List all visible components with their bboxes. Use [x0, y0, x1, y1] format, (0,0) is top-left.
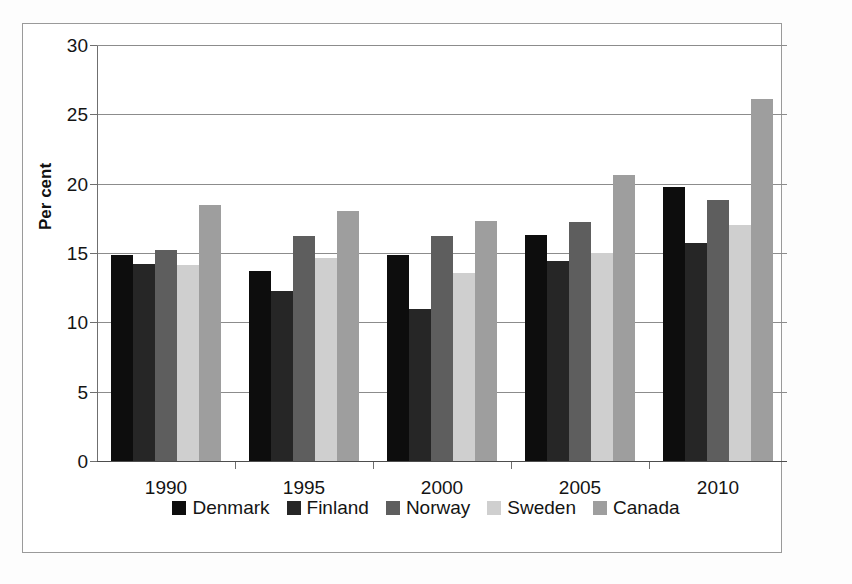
x-tick-label-2000: 2000 — [421, 477, 463, 499]
bar-sweden-2005 — [591, 253, 613, 462]
legend-swatch-icon — [487, 501, 501, 515]
legend-swatch-icon — [287, 501, 301, 515]
bar-norway-2005 — [569, 222, 591, 462]
bar-denmark-2005 — [525, 235, 547, 462]
bar-sweden-2010 — [729, 225, 751, 462]
y-axis-title: Per cent — [36, 163, 56, 230]
bar-group — [387, 46, 497, 462]
bar-norway-1990 — [155, 250, 177, 462]
bar-norway-2010 — [707, 200, 729, 462]
y-axis-line — [97, 46, 98, 462]
bar-canada-2010 — [751, 99, 773, 462]
y-tick-label: 20 — [67, 174, 88, 196]
legend-label: Denmark — [192, 497, 269, 519]
y-tick-label: 30 — [67, 35, 88, 57]
x-tick-mark — [511, 462, 512, 469]
bar-canada-1995 — [337, 211, 359, 462]
bar-denmark-2000 — [387, 255, 409, 462]
legend-label: Norway — [406, 497, 470, 519]
bar-canada-2005 — [613, 175, 635, 462]
bar-denmark-1990 — [111, 255, 133, 462]
legend-label: Canada — [613, 497, 680, 519]
bar-finland-1990 — [133, 264, 155, 462]
y-tick-mark — [90, 253, 97, 254]
bar-group — [249, 46, 359, 462]
x-tick-label-2005: 2005 — [559, 477, 601, 499]
bar-finland-2005 — [547, 261, 569, 462]
bar-sweden-1990 — [177, 265, 199, 462]
bar-group — [111, 46, 221, 462]
legend-swatch-icon — [593, 501, 607, 515]
bar-denmark-1995 — [249, 271, 271, 462]
x-tick-label-1990: 1990 — [145, 477, 187, 499]
y-tick-label: 15 — [67, 243, 88, 265]
y-tick-mark — [90, 184, 97, 185]
y-tick-mark — [90, 114, 97, 115]
bar-finland-1995 — [271, 291, 293, 462]
x-tick-mark — [373, 462, 374, 469]
legend-label: Sweden — [507, 497, 576, 519]
x-tick-label-1995: 1995 — [283, 477, 325, 499]
x-tick-mark — [649, 462, 650, 469]
bar-sweden-1995 — [315, 258, 337, 462]
bar-finland-2010 — [685, 243, 707, 462]
legend-item-sweden: Sweden — [487, 497, 576, 519]
y-tick-mark — [90, 322, 97, 323]
bar-finland-2000 — [409, 309, 431, 462]
bar-group — [663, 46, 773, 462]
legend-item-denmark: Denmark — [172, 497, 269, 519]
legend-swatch-icon — [386, 501, 400, 515]
legend: DenmarkFinlandNorwaySwedenCanada — [0, 497, 852, 519]
y-tick-label: 5 — [77, 382, 88, 404]
bar-canada-2000 — [475, 221, 497, 462]
bar-denmark-2010 — [663, 187, 685, 462]
y-tick-label: 10 — [67, 312, 88, 334]
legend-swatch-icon — [172, 501, 186, 515]
legend-item-norway: Norway — [386, 497, 470, 519]
bar-norway-1995 — [293, 236, 315, 462]
y-tick-mark — [90, 45, 97, 46]
bar-sweden-2000 — [453, 273, 475, 462]
y-tick-mark — [90, 392, 97, 393]
x-tick-mark — [235, 462, 236, 469]
legend-item-canada: Canada — [593, 497, 680, 519]
legend-item-finland: Finland — [287, 497, 369, 519]
legend-label: Finland — [307, 497, 369, 519]
y-tick-label: 25 — [67, 104, 88, 126]
y-tick-label: 0 — [77, 451, 88, 473]
y-tick-mark — [90, 461, 97, 462]
x-axis-line — [97, 461, 787, 462]
bar-norway-2000 — [431, 236, 453, 462]
bar-group — [525, 46, 635, 462]
bar-canada-1990 — [199, 205, 221, 462]
x-tick-label-2010: 2010 — [697, 477, 739, 499]
plot-area: 051015202530 19901995200020052010 — [97, 46, 787, 462]
figure: Per cent 051015202530 199019952000200520… — [0, 0, 852, 584]
